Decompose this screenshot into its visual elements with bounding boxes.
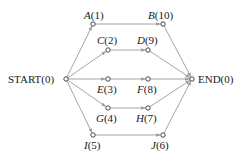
node-label-h: H(7) <box>135 112 157 125</box>
node-f <box>146 77 150 81</box>
node-i <box>91 133 95 137</box>
node-j <box>161 133 165 137</box>
edge-j-end <box>164 81 191 133</box>
node-layer <box>64 22 194 137</box>
node-c <box>106 48 110 52</box>
node-b <box>161 22 165 26</box>
node-label-e: E(3) <box>96 83 117 96</box>
node-label-i: I(5) <box>83 139 101 152</box>
node-label-d: D(9) <box>136 34 158 47</box>
node-d <box>146 48 150 52</box>
node-label-f: F(8) <box>136 83 157 96</box>
node-h <box>146 106 150 110</box>
node-label-c: C(2) <box>97 34 118 47</box>
node-label-g: G(4) <box>96 112 117 125</box>
label-layer: START(0)A(1)B(10)C(2)D(9)E(3)F(8)G(4)H(7… <box>8 9 234 152</box>
node-g <box>106 106 110 110</box>
node-label-end: END(0) <box>198 73 234 86</box>
node-start <box>64 77 68 81</box>
node-label-b: B(10) <box>148 9 173 22</box>
network-diagram: START(0)A(1)B(10)C(2)D(9)E(3)F(8)G(4)H(7… <box>0 0 244 163</box>
node-label-start: START(0) <box>8 73 54 86</box>
node-label-a: A(1) <box>83 9 104 22</box>
node-e <box>106 77 110 81</box>
edge-d-end <box>150 51 190 77</box>
node-end <box>190 77 194 81</box>
edge-layer <box>67 24 191 135</box>
node-a <box>91 22 95 26</box>
node-label-j: J(6) <box>151 139 169 152</box>
